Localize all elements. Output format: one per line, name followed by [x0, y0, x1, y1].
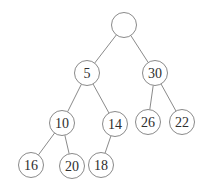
tree-node-n30: 30	[143, 61, 168, 86]
node-label: 10	[55, 116, 69, 131]
node-label: 14	[108, 117, 122, 132]
tree-node-n16: 16	[19, 153, 44, 178]
node-label: 5	[84, 66, 91, 81]
tree-node-n26: 26	[136, 110, 161, 135]
tree-node-n14: 14	[103, 112, 128, 137]
node-label: 26	[141, 115, 155, 130]
tree-edge-n5-n14	[93, 84, 109, 113]
tree-edge-root-n30	[131, 36, 148, 63]
tree-node-n18: 18	[89, 153, 114, 178]
tree-edge-n30-n26	[150, 85, 153, 109]
tree-node-n20: 20	[60, 154, 85, 179]
tree-node-n10: 10	[50, 111, 75, 136]
node-label: 20	[65, 159, 79, 174]
node-label: 22	[175, 115, 189, 130]
tree-node-n22: 22	[170, 110, 195, 135]
tree-edge-n5-n10	[68, 84, 82, 112]
tree-edge-root-n5	[95, 35, 117, 63]
node-label: 16	[24, 158, 38, 173]
tree-edges	[38, 35, 176, 155]
tree-edge-n10-n16	[38, 133, 54, 155]
tree-edge-n30-n22	[161, 84, 176, 111]
node-label: 30	[148, 66, 162, 81]
tree-edge-n10-n20	[65, 135, 69, 154]
tree-node-root	[112, 13, 137, 38]
binary-tree-diagram: 53010142622162018	[0, 0, 208, 194]
tree-edge-n14-n18	[105, 136, 111, 153]
tree-node-n5: 5	[75, 61, 100, 86]
node-circle	[112, 13, 137, 38]
node-label: 18	[94, 158, 108, 173]
tree-nodes: 53010142622162018	[19, 13, 195, 179]
